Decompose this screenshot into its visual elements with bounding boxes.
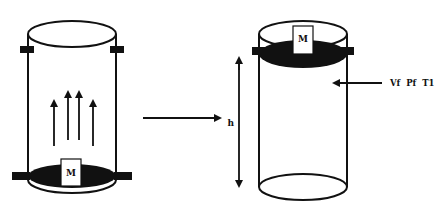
- clamp-top-left: [20, 46, 34, 53]
- height-label: h: [227, 118, 234, 128]
- left-cylinder: M: [12, 21, 132, 193]
- clamp-bottom-left: [12, 172, 30, 180]
- state-label: Vf Pf T1: [389, 78, 434, 88]
- right-cylinder: M: [252, 21, 354, 200]
- diagram-canvas: M M h Vf Pf T1: [0, 0, 437, 210]
- clamp-top-right: [110, 46, 124, 53]
- mass-label: M: [298, 34, 308, 44]
- upward-arrows-icon: [54, 92, 93, 146]
- mass-label: M: [66, 168, 76, 178]
- clamp-bottom-right: [114, 172, 132, 180]
